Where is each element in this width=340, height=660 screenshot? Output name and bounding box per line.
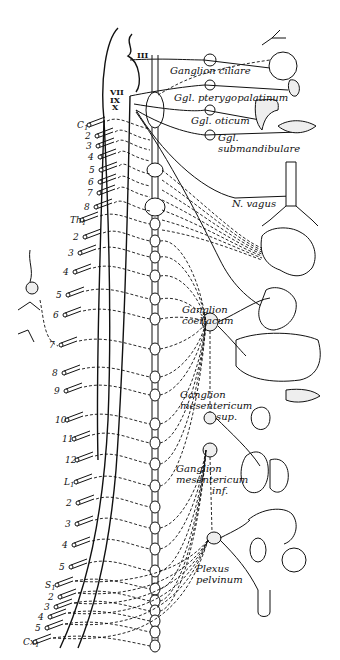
spinal-segment-label: 2 bbox=[84, 131, 91, 141]
parotid-gland bbox=[255, 99, 278, 130]
blood-vessel bbox=[18, 330, 34, 342]
nasal-gland bbox=[288, 80, 299, 96]
stellate-ganglion bbox=[145, 198, 165, 216]
small-intestine bbox=[270, 459, 288, 492]
liver bbox=[236, 333, 320, 381]
hair-follicle bbox=[26, 282, 38, 294]
testis-loop bbox=[282, 548, 306, 572]
abdominal-organs bbox=[236, 288, 320, 493]
spinal-segment-label: 5 bbox=[35, 623, 41, 633]
pelvic-plexus bbox=[207, 532, 221, 544]
spinal-segment-label: 8 bbox=[84, 202, 90, 212]
spinal-segment-label: 4 bbox=[37, 612, 44, 622]
penis bbox=[258, 590, 270, 617]
spinal-segment-label: 6 bbox=[53, 310, 59, 320]
spinal-segment-label: 5 bbox=[89, 165, 95, 175]
spinal-segment-label: 3 bbox=[86, 141, 92, 151]
ganglion-label-mesentericum-inf: Ganglionmesentericuminf. bbox=[176, 463, 248, 496]
spinal-segment-label: 4 bbox=[61, 540, 68, 550]
spinal-segment-label: 8 bbox=[52, 368, 58, 378]
spinal-segment-label: 11 bbox=[62, 434, 73, 444]
autonomic-nervous-system-diagram: IIIVIIIXXGanglion ciliareGgl. pterygopal… bbox=[0, 0, 340, 660]
ganglion-label-vagus: N. vagus bbox=[231, 198, 276, 209]
spinal-segment-label: 3 bbox=[44, 602, 50, 612]
head-organs bbox=[255, 30, 316, 133]
spinal-segment-label: 5 bbox=[59, 562, 65, 572]
ganglion-label-submandibulare: Ggl.submandibulare bbox=[218, 132, 300, 154]
spinal-segment-label: 3 bbox=[68, 248, 74, 258]
kidney bbox=[251, 407, 270, 429]
spinal-segment-label: 7 bbox=[49, 340, 55, 350]
spinal-segment-label: 10 bbox=[55, 415, 67, 425]
eye bbox=[269, 52, 297, 80]
skin-effector-illustration bbox=[18, 250, 58, 346]
spinal-segment-label: 2 bbox=[72, 232, 79, 242]
ganglion-label-coeliacum: Ganglioncoeliacum bbox=[182, 304, 233, 326]
trachea bbox=[262, 162, 318, 226]
cranial-nerve-label: III bbox=[137, 50, 148, 60]
pelvic-organs bbox=[248, 509, 306, 616]
spinal-nerves bbox=[33, 117, 117, 644]
stomach bbox=[259, 288, 296, 330]
spinal-segment-label: 5 bbox=[56, 290, 62, 300]
ganglion-label-ciliare: Ganglion ciliare bbox=[170, 65, 251, 76]
spinal-segment-label: 3 bbox=[65, 519, 71, 529]
sympathetic-trunk bbox=[145, 55, 165, 652]
submandibular-gland bbox=[278, 121, 316, 133]
heart bbox=[261, 228, 315, 276]
spinal-segment-label: 9 bbox=[54, 386, 60, 396]
lacrimal-gland bbox=[262, 30, 286, 45]
spinal-segment-label: 12 bbox=[65, 455, 77, 465]
cranial-nerve-label: X bbox=[112, 102, 119, 112]
pancreas bbox=[286, 389, 320, 402]
spinal-segment-label: 7 bbox=[87, 188, 93, 198]
middle-cervical-ganglion bbox=[147, 163, 163, 177]
spinal-segment-label: 2 bbox=[65, 498, 72, 508]
ganglion-label-pterygopalatinum: Ggl. pterygopalatinum bbox=[174, 92, 288, 103]
spinal-segment-label: L1 bbox=[63, 477, 74, 489]
ganglion-label-mesentericum-sup: Ganglionmesentericumsup. bbox=[180, 389, 252, 422]
spinal-segment-label: 4 bbox=[62, 267, 69, 277]
bladder bbox=[250, 538, 266, 562]
superior-mesenteric-ganglion bbox=[204, 412, 216, 424]
ganglion-label-plexus-pelvinum: Plexuspelvinum bbox=[195, 563, 243, 585]
spinal-segment-label: 6 bbox=[88, 177, 94, 187]
spinal-segment-label: 2 bbox=[47, 592, 54, 602]
spinal-segment-label: 4 bbox=[87, 152, 94, 162]
ganglion-label-oticum: Ggl. oticum bbox=[191, 115, 250, 126]
sweat-gland bbox=[18, 302, 40, 310]
central-nervous-system-outline bbox=[60, 28, 139, 648]
spinal-segment-label: S1 bbox=[45, 580, 56, 592]
